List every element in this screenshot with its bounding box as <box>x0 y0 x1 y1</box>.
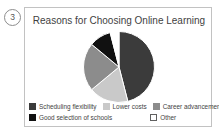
chart-panel: Reasons for Choosing Online Learning Sch… <box>24 7 212 127</box>
chart-title: Reasons for Choosing Online Learning <box>25 15 213 26</box>
legend-swatch-icon <box>150 114 157 121</box>
legend-swatch-icon <box>29 114 36 121</box>
legend-item-label: Scheduling flexibility <box>39 103 97 110</box>
legend-item-lower-costs[interactable]: Lower costs <box>103 103 147 110</box>
pie-chart-svg <box>83 31 155 103</box>
legend-row: Good selection of schools Other <box>27 112 211 123</box>
legend-item-label: Lower costs <box>113 103 147 110</box>
legend-item-label: Career advancement <box>163 103 219 110</box>
legend-swatch-icon <box>29 103 36 110</box>
pie-chart <box>83 31 155 103</box>
chart-legend: Scheduling flexibility Lower costs Caree… <box>27 100 211 126</box>
pie-slice-group <box>84 32 155 103</box>
legend-item-career-advancement[interactable]: Career advancement <box>153 103 219 110</box>
legend-swatch-icon <box>103 103 110 110</box>
legend-item-scheduling-flexibility[interactable]: Scheduling flexibility <box>29 103 97 110</box>
legend-item-other[interactable]: Other <box>150 114 176 121</box>
figure-number: 3 <box>4 9 21 26</box>
legend-item-good-selection-of-schools[interactable]: Good selection of schools <box>29 114 112 121</box>
legend-item-label: Good selection of schools <box>39 114 112 121</box>
legend-swatch-icon <box>153 103 160 110</box>
legend-item-label: Other <box>160 114 176 121</box>
legend-row: Scheduling flexibility Lower costs Caree… <box>27 101 211 112</box>
